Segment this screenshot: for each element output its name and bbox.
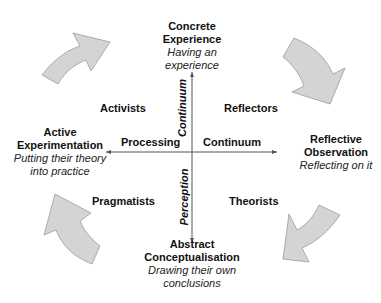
axis-label-perception: Perception: [178, 165, 192, 229]
pole-title-line1: Abstract: [122, 238, 262, 251]
horizontal-axis-arrowhead-right: [272, 150, 277, 154]
pole-subtitle-line2: conclusions: [122, 277, 262, 290]
pole-title-line1: Reflective: [286, 133, 381, 146]
quadrant-reflectors: Reflectors: [224, 102, 278, 115]
axis-label-continuum-horizontal: Continuum: [203, 136, 261, 149]
pole-reflective-observation: Reflective Observation Reflecting on it: [286, 133, 381, 172]
pole-subtitle-line1: Putting their theory: [10, 152, 110, 165]
pole-subtitle-line1: Having an: [132, 46, 252, 59]
pole-concrete-experience: Concrete Experience Having an experience: [132, 20, 252, 72]
vertical-axis-arrowhead-top: [190, 72, 194, 77]
bottom-right-cycle-arrow-icon: [283, 205, 340, 262]
pole-subtitle-line2: into practice: [10, 165, 110, 178]
axis-label-processing: Processing: [121, 136, 180, 149]
pole-title-line2: Experience: [132, 33, 252, 46]
pole-abstract-conceptualisation: Abstract Conceptualisation Drawing their…: [122, 238, 262, 290]
quadrant-activists: Activists: [100, 102, 146, 115]
top-left-cycle-arrow-icon: [42, 33, 110, 84]
pole-subtitle-line1: Drawing their own: [122, 264, 262, 277]
pole-title-line2: Experimentation: [10, 139, 110, 152]
quadrant-pragmatists: Pragmatists: [92, 195, 155, 208]
pole-title-line2: Conceptualisation: [122, 251, 262, 264]
axis-label-continuum-vertical: Continuum: [176, 78, 190, 138]
pole-subtitle-line1: Reflecting on it: [286, 159, 381, 172]
quadrant-theorists: Theorists: [229, 195, 279, 208]
pole-title-line2: Observation: [286, 146, 381, 159]
pole-subtitle-line2: experience: [132, 59, 252, 72]
pole-title-line1: Concrete: [132, 20, 252, 33]
top-right-cycle-arrow-icon: [283, 38, 345, 104]
pole-active-experimentation: Active Experimentation Putting their the…: [10, 126, 110, 178]
pole-title-line1: Active: [10, 126, 110, 139]
